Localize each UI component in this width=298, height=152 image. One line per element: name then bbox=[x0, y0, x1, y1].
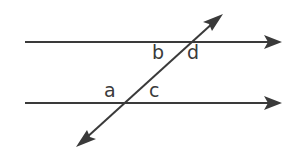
angle-label-c: c bbox=[149, 79, 159, 101]
angle-label-b: b bbox=[152, 41, 164, 63]
transversal-diagram: a b c d bbox=[0, 0, 298, 152]
angle-label-d: d bbox=[187, 41, 199, 63]
diagram-canvas: a b c d bbox=[0, 0, 298, 152]
angle-label-a: a bbox=[104, 79, 116, 101]
